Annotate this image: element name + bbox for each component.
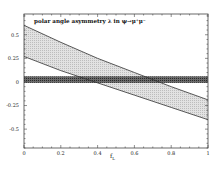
x-tick-label: 1 [206, 150, 209, 156]
x-tick-label: 0.4 [94, 150, 102, 156]
y-tick-label: 0.25 [8, 55, 19, 61]
plot-area [24, 25, 208, 119]
x-axis-label: fL [110, 152, 115, 161]
y-tick-label: 0.5 [11, 32, 19, 38]
measurement-band [24, 76, 208, 83]
y-tick-labels: 0.5 0.25 0 -0.25 -0.5 [6, 32, 19, 132]
y-tick-label: 0 [16, 79, 19, 85]
prediction-band [24, 25, 208, 119]
chart-title: polar angle asymmetry λ in ψ→μ⁺μ⁻ [34, 18, 146, 25]
x-tick-label: 0.6 [130, 150, 138, 156]
x-tick-label: 0.2 [57, 150, 65, 156]
x-tick-labels: 0 0.2 0.4 0.6 0.8 1 [22, 150, 209, 156]
x-tick-label: 0.8 [167, 150, 175, 156]
x-tick-label: 0 [22, 150, 25, 156]
x-axis-label-sub: L [112, 156, 115, 161]
y-tick-label: -0.5 [9, 126, 19, 132]
chart: polar angle asymmetry λ in ψ→μ⁺μ⁻ 0.5 0.… [0, 0, 220, 169]
y-tick-label: -0.25 [6, 102, 19, 108]
